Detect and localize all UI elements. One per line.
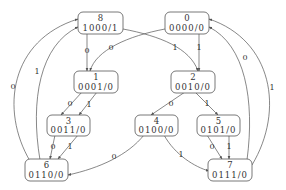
- state-node-7: 7 0111/0: [208, 159, 252, 181]
- edge-label-2-4: 0: [168, 99, 173, 108]
- state-code: 0110/0: [29, 170, 65, 180]
- edge-label-8-1: 0: [84, 46, 89, 55]
- edge-label-5-7-a: 0: [209, 142, 214, 151]
- edge-label-4-7: 1: [178, 150, 183, 159]
- state-node-2: 2 0010/0: [171, 71, 215, 93]
- edge-4-to-7: [164, 135, 209, 171]
- edge-label-8-2: 1: [172, 43, 177, 52]
- edge-label-7-0-b: 1: [269, 83, 274, 92]
- state-code: 1000/1: [83, 23, 119, 33]
- state-node-3: 3 0011/0: [47, 115, 90, 136]
- edge-6-to-8-label0: [14, 19, 78, 161]
- state-number: 8: [98, 13, 103, 23]
- state-number: 1: [93, 72, 98, 82]
- state-number: 6: [44, 160, 49, 170]
- edge-label-6-8-a: 0: [10, 82, 15, 91]
- state-node-0: 0 0000/0: [165, 12, 209, 34]
- state-diagram: 0 1 0 1 0 1 0 1 0 1 0 1 0 1 0 1 0 1 8 10…: [0, 0, 286, 190]
- state-code: 0101/0: [201, 125, 237, 135]
- state-number: 2: [190, 72, 195, 82]
- edge-label-7-0-a: 0: [242, 53, 247, 62]
- state-number: 7: [227, 160, 232, 170]
- state-code: 0011/0: [51, 125, 87, 135]
- state-code: 0111/0: [212, 170, 248, 180]
- state-number: 0: [184, 13, 189, 23]
- state-code: 0000/0: [169, 23, 205, 33]
- state-node-8: 8 1000/1: [78, 12, 123, 34]
- edge-label-6-8-b: 1: [34, 67, 39, 76]
- state-node-1: 1 0001/0: [74, 71, 118, 93]
- edge-8-to-2: [123, 29, 198, 71]
- state-code: 0010/0: [175, 82, 211, 92]
- edge-label-5-7-b: 1: [226, 142, 231, 151]
- edge-label-3-6-a: 0: [50, 142, 55, 151]
- state-node-5: 5 0101/0: [197, 115, 240, 136]
- state-node-4: 4 0100/0: [135, 115, 178, 136]
- edge-6-to-8-label1: [36, 27, 78, 160]
- edge-label-2-5: 1: [204, 99, 209, 108]
- edge-4-to-6: [68, 135, 144, 175]
- state-code: 0100/0: [139, 125, 175, 135]
- edge-label-0-1: 0: [108, 43, 113, 52]
- edge-7-to-0-label1: [209, 19, 270, 165]
- edge-label-1-3-b: 1: [86, 100, 91, 109]
- state-code: 0001/0: [78, 82, 114, 92]
- edge-label-0-2: 1: [196, 43, 201, 52]
- edge-label-3-6-b: 1: [67, 142, 72, 151]
- state-node-6: 6 0110/0: [25, 159, 68, 181]
- edge-label-4-6: 0: [111, 152, 116, 161]
- edge-0-to-1: [90, 29, 165, 71]
- edge-label-1-3-a: 0: [67, 99, 72, 108]
